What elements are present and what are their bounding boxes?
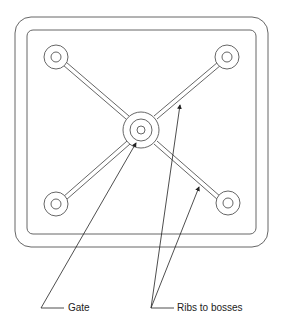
gate-leader	[41, 143, 136, 308]
central-hub	[123, 112, 159, 148]
part-diagram	[0, 0, 282, 328]
boss-bottom-left	[44, 192, 68, 216]
ribs-label: Ribs to bosses	[177, 303, 243, 313]
boss-top-right	[215, 45, 239, 69]
ribs-leader-2	[151, 187, 199, 308]
gate-label: Gate	[68, 303, 90, 313]
boss-bottom-right	[216, 191, 240, 215]
boss-top-left	[44, 45, 68, 69]
